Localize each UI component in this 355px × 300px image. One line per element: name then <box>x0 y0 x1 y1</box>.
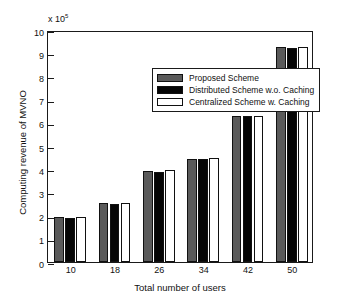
bar <box>243 116 253 262</box>
bar <box>187 159 197 262</box>
y-axis-tick: 3 <box>48 194 54 195</box>
bar <box>209 158 219 262</box>
x-axis-title: Total number of users <box>47 282 313 293</box>
x-axis-tick-label: 34 <box>199 265 209 275</box>
y-axis-tick-label: 8 <box>39 74 44 83</box>
bar-group <box>232 32 264 262</box>
y-axis-tick: 2 <box>48 218 54 219</box>
x-axis-tick-label: 10 <box>66 265 76 275</box>
y-axis-tick: 5 <box>48 148 54 149</box>
legend-label-centralized-scheme: Centralized Scheme w. Caching <box>189 98 309 107</box>
legend-swatch-distributed-scheme <box>157 86 183 94</box>
y-axis-tick-mark-right <box>48 148 54 149</box>
y-axis-tick: 9 <box>48 55 54 56</box>
y-axis-tick-mark-right <box>48 194 54 195</box>
legend-item: Proposed Scheme <box>157 72 314 84</box>
y-axis-tick-label: 9 <box>39 51 44 60</box>
legend-item: Centralized Scheme w. Caching <box>157 96 314 108</box>
x-axis-tick-label: 18 <box>110 265 120 275</box>
y-axis-tick-mark-right <box>48 264 54 265</box>
plot-area: 012345678910 101826344250 Proposed Schem… <box>47 31 313 263</box>
legend-item: Distributed Scheme w.o. Caching <box>157 84 314 96</box>
y-axis-tick-mark-right <box>48 125 54 126</box>
y-axis-tick-mark-right <box>48 171 54 172</box>
legend-swatch-centralized-scheme <box>157 98 183 106</box>
y-axis-tick: 1 <box>48 241 54 242</box>
bar <box>99 203 109 262</box>
y-axis-tick-mark-right <box>48 55 54 56</box>
x-axis-tick-label: 42 <box>243 265 253 275</box>
bar <box>143 171 153 262</box>
bar <box>198 159 208 262</box>
y-axis-tick: 6 <box>48 125 54 126</box>
y-axis-tick: 10 <box>48 32 54 33</box>
y-axis-title: Computing revenue of MVNO <box>17 68 28 238</box>
bar <box>76 217 86 262</box>
y-axis-tick-mark-right <box>48 241 54 242</box>
bar-group <box>143 32 175 262</box>
bar <box>154 172 164 262</box>
y-axis-tick-label: 1 <box>39 237 44 246</box>
y-axis-tick-label: 7 <box>39 98 44 107</box>
y-axis-tick-label: 6 <box>39 121 44 130</box>
y-axis-exponent-power: 5 <box>65 13 68 19</box>
y-axis-tick-mark-right <box>48 102 54 103</box>
x-axis-tick-label: 26 <box>154 265 164 275</box>
bar <box>165 170 175 262</box>
legend-label-distributed-scheme: Distributed Scheme w.o. Caching <box>189 86 314 95</box>
bar-group <box>54 32 86 262</box>
y-axis-exponent-base: x 10 <box>48 14 65 24</box>
bar <box>254 116 264 262</box>
bar <box>232 116 242 262</box>
y-axis-tick-mark-right <box>48 218 54 219</box>
bar <box>121 203 131 262</box>
bar <box>110 204 120 262</box>
y-axis-tick-label: 3 <box>39 190 44 199</box>
y-axis-tick-label: 10 <box>34 28 44 37</box>
bar-group <box>276 32 308 262</box>
bar-group <box>99 32 131 262</box>
figure: x 105 Computing revenue of MVNO Total nu… <box>0 0 355 300</box>
y-axis-tick-label: 4 <box>39 167 44 176</box>
bar <box>54 217 64 262</box>
y-axis-tick-label: 0 <box>39 260 44 269</box>
y-axis-tick: 8 <box>48 78 54 79</box>
y-axis-tick-mark-right <box>48 78 54 79</box>
y-axis-tick-label: 2 <box>39 214 44 223</box>
y-axis-tick: 0 <box>48 264 54 265</box>
y-axis-tick: 7 <box>48 102 54 103</box>
x-axis-tick-label: 50 <box>287 265 297 275</box>
bar <box>65 218 75 262</box>
y-axis-exponent-label: x 105 <box>48 14 68 24</box>
y-axis-tick: 4 <box>48 171 54 172</box>
legend-label-proposed-scheme: Proposed Scheme <box>189 74 259 83</box>
y-axis-tick-mark-right <box>48 32 54 33</box>
bar-group <box>187 32 219 262</box>
legend: Proposed Scheme Distributed Scheme w.o. … <box>152 68 320 112</box>
legend-swatch-proposed-scheme <box>157 74 183 82</box>
y-axis-tick-label: 5 <box>39 144 44 153</box>
